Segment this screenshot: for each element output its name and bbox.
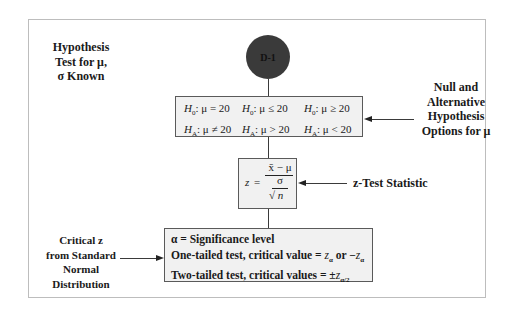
arrowhead-left-icon (298, 180, 306, 186)
hypothesis-cell: HA: μ < 20 (304, 122, 362, 142)
callout-line: Options for μ (408, 124, 504, 139)
arrowhead-right-icon (156, 255, 164, 261)
hypotheses-grid: H0: μ = 20 H0: μ ≤ 20 H0: μ ≥ 20 HA: μ ≠… (184, 101, 362, 142)
one-tailed-line: One-tailed test, critical value = zα or … (171, 248, 364, 269)
title-line: Test for μ, (36, 55, 126, 70)
formula-numerator: x̄ − μ (266, 161, 294, 173)
z-formula: z = x̄ − μ σ √ n (239, 159, 296, 208)
connector-line (268, 79, 269, 97)
hypothesis-cell: H0: μ = 20 (184, 101, 242, 121)
significance-line: α = Significance level (171, 232, 364, 248)
hypothesis-cell: H0: μ ≥ 20 (304, 101, 362, 121)
formula-callout: z-Test Statistic (353, 176, 428, 191)
hypothesis-cell: HA: μ > 20 (242, 122, 304, 142)
two-tailed-line: Two-tailed test, critical values = ±zα/2 (171, 268, 364, 289)
title-line: σ Known (36, 69, 126, 84)
connector-line (268, 137, 269, 158)
hypotheses-box: H0: μ = 20 H0: μ ≤ 20 H0: μ ≥ 20 HA: μ ≠… (175, 96, 363, 137)
callout-line: Normal (36, 262, 126, 277)
hypotheses-callout: Null and Alternative Hypothesis Options … (408, 80, 504, 138)
node-circle: D-1 (246, 35, 290, 79)
hypothesis-cell: H0: μ ≤ 20 (242, 101, 304, 121)
callout-line: Critical z (36, 233, 126, 248)
critical-callout: Critical z from Standard Normal Distribu… (36, 233, 126, 291)
hypothesis-cell: HA: μ ≠ 20 (184, 122, 242, 142)
formula-z: z (245, 176, 249, 188)
formula-equals: = (254, 176, 260, 188)
title-label: Hypothesis Test for μ, σ Known (36, 40, 126, 84)
arrowhead-left-icon (364, 116, 372, 122)
callout-line: Hypothesis (408, 109, 504, 124)
callout-line: from Standard (36, 248, 126, 263)
callout-line: Alternative (408, 95, 504, 110)
formula-sqrt-n: √ n (269, 189, 297, 201)
connector-line (268, 209, 269, 228)
formula-box: z = x̄ − μ σ √ n (238, 158, 297, 209)
formula-sigma: σ (266, 174, 294, 186)
callout-line: Null and (408, 80, 504, 95)
callout-line: Distribution (36, 277, 126, 292)
critical-values-box: α = Significance level One-tailed test, … (164, 228, 373, 282)
node-id: D-1 (260, 52, 276, 63)
title-line: Hypothesis (36, 40, 126, 55)
formula-arrow-line (304, 183, 347, 184)
critical-values-text: α = Significance level One-tailed test, … (171, 232, 364, 289)
